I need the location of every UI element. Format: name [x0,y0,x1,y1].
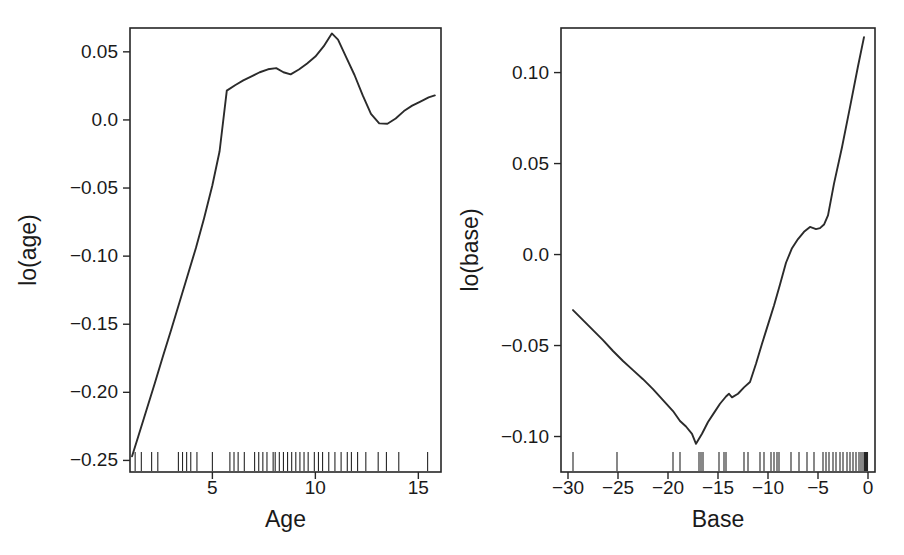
y-axis-tick-label: −0.20 [70,381,118,402]
y-axis-tick-label: −0.10 [501,426,549,447]
x-axis-tick-label: 10 [305,477,326,498]
panel-lo-base: 0.100.050.0−0.05−0.10−30−25−20−15−10−50B… [452,0,904,555]
x-axis-tick-label: −30 [552,477,584,498]
y-axis-tick-label: −0.15 [70,313,118,334]
y-axis-tick-label: 0.0 [92,109,118,130]
x-axis-tick-label: 0 [863,477,874,498]
x-axis-tick-label: −25 [602,477,634,498]
x-axis-title: Base [692,506,744,532]
plot-area-lo-base: 0.100.050.0−0.05−0.10−30−25−20−15−10−50B… [452,0,904,555]
rug-plot [573,452,868,471]
x-axis-tick-label: −20 [652,477,684,498]
y-axis-title: lo(base) [457,208,483,291]
y-axis-tick-label: 0.0 [523,244,549,265]
y-axis-title: lo(age) [15,214,41,286]
y-axis-tick-label: −0.05 [501,335,549,356]
plot-area-lo-age: 0.050.0−0.05−0.10−0.15−0.20−0.2551015Age… [0,0,452,555]
y-axis-tick-label: −0.25 [70,449,118,470]
plot-frame [130,28,441,472]
rug-plot [135,452,427,471]
y-axis-tick-label: 0.10 [512,62,549,83]
y-axis-tick-label: 0.05 [512,153,549,174]
panel-lo-age: 0.050.0−0.05−0.10−0.15−0.20−0.2551015Age… [0,0,452,555]
figure-root: 0.050.0−0.05−0.10−0.15−0.20−0.2551015Age… [0,0,904,555]
x-axis-title: Age [265,506,306,532]
x-axis-tick-label: −15 [702,477,734,498]
x-axis-tick-label: −10 [752,477,784,498]
x-axis-tick-label: 5 [207,477,218,498]
y-axis-tick-label: −0.10 [70,245,118,266]
x-axis-tick-label: 15 [408,477,429,498]
y-axis-tick-label: 0.05 [81,41,118,62]
smooth-curve [132,33,435,456]
smooth-curve [573,37,864,444]
y-axis-tick-label: −0.05 [70,177,118,198]
x-axis-tick-label: −5 [807,477,829,498]
